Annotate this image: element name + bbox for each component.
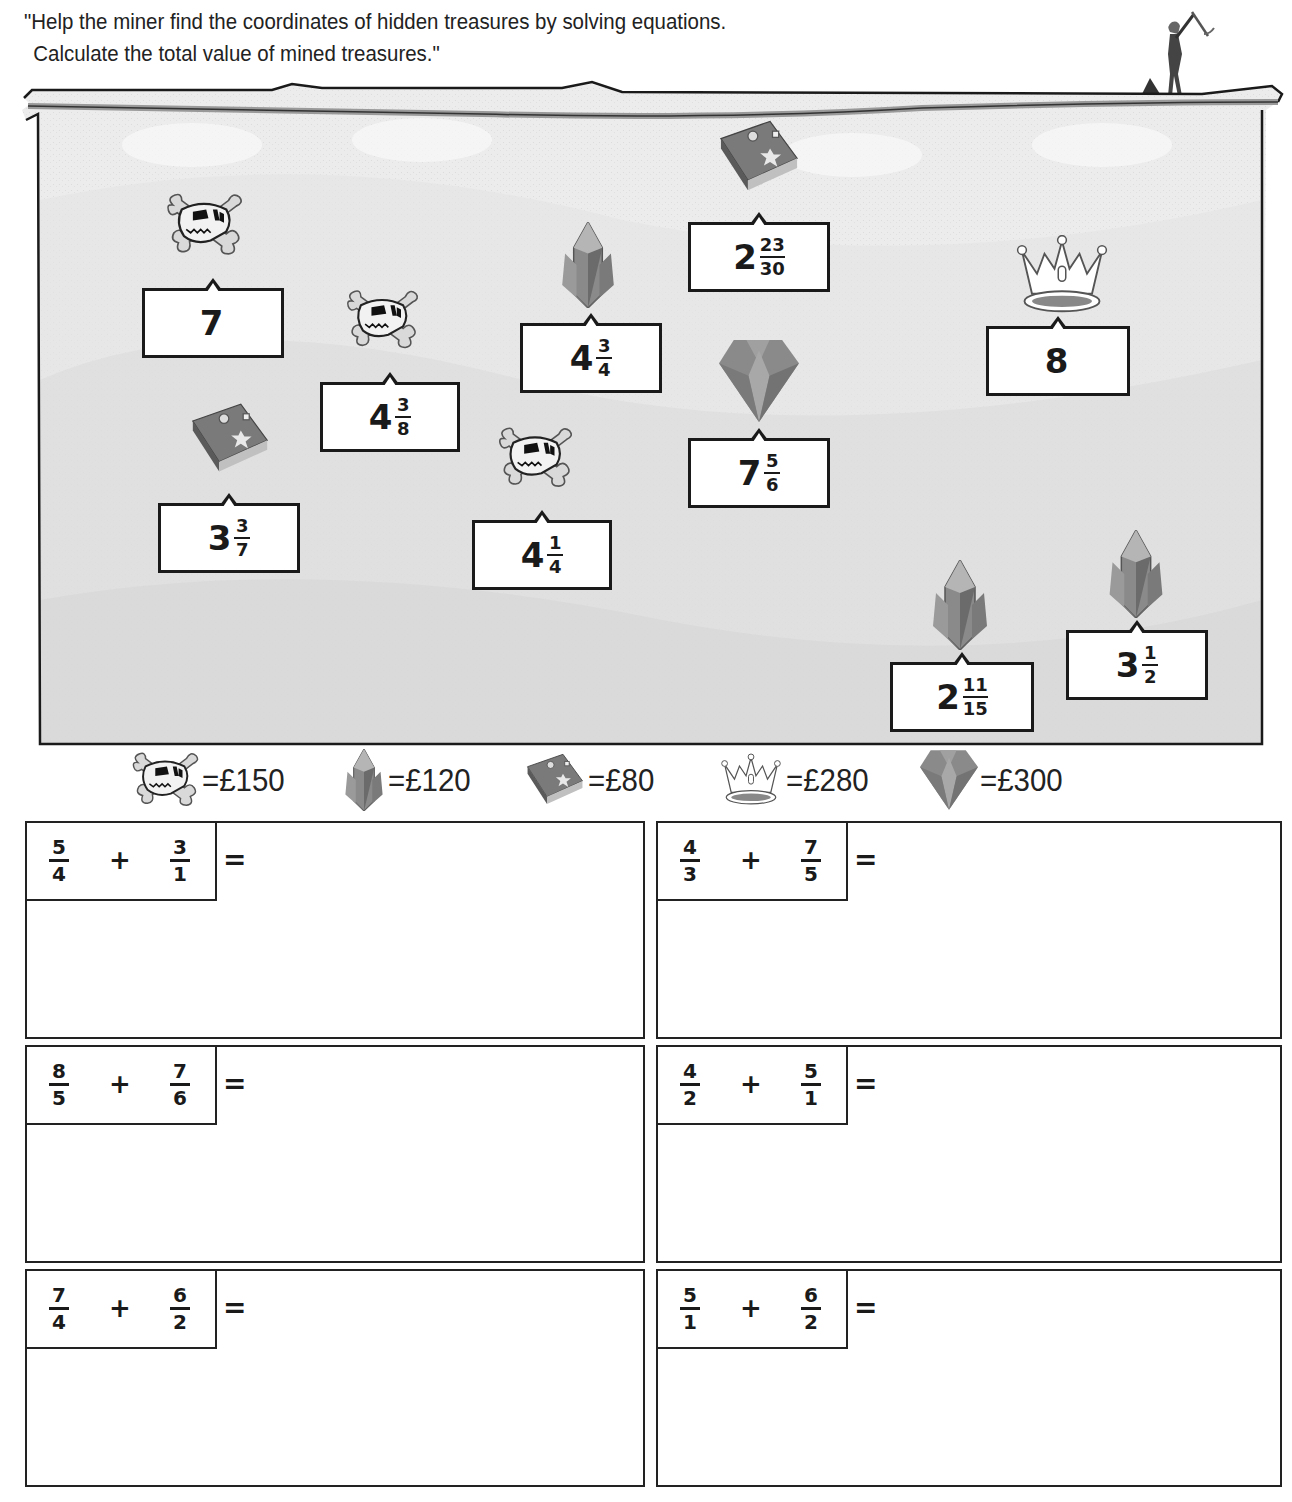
plus-sign: +	[109, 845, 131, 875]
problem-box-5[interactable]: 74 + 62 =	[25, 1269, 645, 1487]
crystal-icon	[342, 749, 386, 811]
equals-sign: =	[223, 1291, 246, 1324]
treasure-tag-2-23-30: 2 2330	[688, 222, 830, 292]
fraction: 1115	[963, 676, 988, 719]
instructions-line-1: "Help the miner find the coordinates of …	[24, 6, 726, 38]
equals-sign: =	[223, 1067, 246, 1100]
instructions: "Help the miner find the coordinates of …	[24, 6, 726, 70]
equals-sign: =	[223, 843, 246, 876]
skull-icon	[164, 185, 244, 265]
fraction: 62	[170, 1285, 190, 1332]
problem-box-4[interactable]: 42 + 51 =	[656, 1045, 1282, 1263]
legend-item-diamond: =£300	[920, 750, 1070, 810]
skull-icon	[344, 280, 420, 360]
fraction: 12	[1142, 644, 1158, 687]
problem-box-6[interactable]: 51 + 62 =	[656, 1269, 1282, 1487]
plus-sign: +	[740, 1293, 762, 1323]
treasure-tag-8: 8	[986, 326, 1130, 396]
equation: 51 + 62	[658, 1271, 848, 1349]
fraction: 31	[170, 837, 190, 884]
plus-sign: +	[109, 1293, 131, 1323]
diamond-icon	[920, 750, 978, 810]
fraction: 38	[395, 396, 411, 439]
equals-sign: =	[854, 843, 877, 876]
fraction: 34	[596, 337, 612, 380]
mine-field: 7 4 38 4 34 2 2330 8 3 37 4 14 7 56 2	[22, 80, 1284, 750]
book-icon	[188, 402, 272, 476]
legend-item-skull: =£150	[130, 750, 292, 810]
fraction: 85	[49, 1061, 69, 1108]
plus-sign: +	[740, 1069, 762, 1099]
equals-sign: =	[854, 1067, 877, 1100]
fraction: 51	[680, 1285, 700, 1332]
fraction: 76	[170, 1061, 190, 1108]
treasure-tag-3-1-2: 3 12	[1066, 630, 1208, 700]
fraction: 56	[764, 452, 780, 495]
equation: 42 + 51	[658, 1047, 848, 1125]
crystal-icon	[556, 222, 620, 308]
fraction: 51	[801, 1061, 821, 1108]
fraction: 37	[234, 517, 250, 560]
equals-sign: =	[854, 1291, 877, 1324]
treasure-tag-7: 7	[142, 288, 284, 358]
crown-icon	[1012, 235, 1112, 315]
instructions-line-2: Calculate the total value of mined treas…	[24, 38, 726, 70]
book-icon	[716, 120, 802, 194]
treasure-value-legend: =£150 =£120 =£80 =£280 =£300	[130, 748, 1108, 812]
skull-icon	[130, 750, 200, 810]
legend-item-book: =£80	[524, 752, 660, 808]
book-icon	[524, 752, 586, 808]
treasure-tag-2-11-15: 2 1115	[890, 662, 1034, 732]
treasure-tag-3-3-7: 3 37	[158, 503, 300, 573]
equation: 43 + 75	[658, 823, 848, 901]
crystal-icon	[928, 560, 992, 650]
fraction: 54	[49, 837, 69, 884]
fraction: 2330	[760, 236, 785, 279]
treasure-tag-4-1-4: 4 14	[472, 520, 612, 590]
crystal-icon	[1104, 530, 1168, 618]
fraction: 74	[49, 1285, 69, 1332]
plus-sign: +	[740, 845, 762, 875]
treasure-tag-4-3-8: 4 38	[320, 382, 460, 452]
problem-box-2[interactable]: 43 + 75 =	[656, 821, 1282, 1039]
diamond-icon	[718, 340, 800, 422]
legend-item-crystal: =£120	[342, 749, 478, 811]
problem-box-3[interactable]: 85 + 76 =	[25, 1045, 645, 1263]
treasure-tag-7-5-6: 7 56	[688, 438, 830, 508]
equation: 54 + 31	[27, 823, 217, 901]
skull-icon	[496, 418, 574, 498]
fraction: 42	[680, 1061, 700, 1108]
fraction: 43	[680, 837, 700, 884]
legend-item-crown: =£280	[718, 753, 876, 807]
problem-box-1[interactable]: 54 + 31 =	[25, 821, 645, 1039]
equation: 74 + 62	[27, 1271, 217, 1349]
treasure-tag-4-3-4: 4 34	[520, 323, 662, 393]
equation: 85 + 76	[27, 1047, 217, 1125]
fraction: 14	[547, 534, 563, 577]
fraction: 62	[801, 1285, 821, 1332]
plus-sign: +	[109, 1069, 131, 1099]
fraction: 75	[801, 837, 821, 884]
crown-icon	[718, 753, 784, 807]
